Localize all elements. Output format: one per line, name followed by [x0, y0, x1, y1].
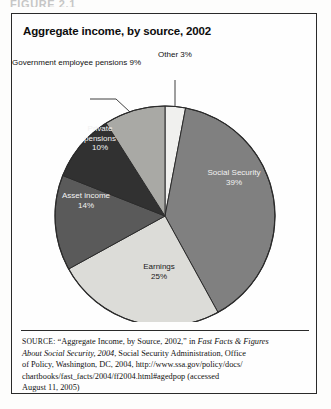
source-line-3: of Policy, Washington, DC, 2004, http://…	[22, 359, 310, 371]
pie-label-private-pensions-name-line2: pensions	[64, 134, 136, 144]
source-line-4: chartbooks/fast_facts/2004/ff2004.html#a…	[22, 371, 310, 383]
pie-label-earnings-name: Earnings	[143, 262, 175, 271]
pie-callout-gov-pensions-line1: Government	[12, 58, 56, 67]
figure-frame: Aggregate income, by source, 2002 Social…	[11, 13, 317, 394]
pie-label-private-pensions: Private pensions 10%	[64, 124, 136, 153]
leader-line-government-employee-pensions	[90, 99, 130, 112]
figure-title: Aggregate income, by source, 2002	[23, 25, 211, 37]
source-tag: SOURCE:	[22, 337, 55, 346]
source-line-2: About Social Security, 2004, Social Secu…	[22, 348, 310, 360]
pie-chart: Social Security 39% Earnings 25% Asset i…	[12, 50, 318, 322]
pie-callout-other-name: Other	[158, 50, 178, 59]
source-note: SOURCE: “Aggregate Income, by Source, 20…	[22, 336, 310, 394]
pie-label-social-security-value: 39%	[188, 178, 280, 188]
pie-callout-other-value: 3%	[180, 50, 192, 59]
pie-callout-other: Other 3%	[147, 50, 203, 60]
pie-label-private-pensions-value: 10%	[64, 143, 136, 153]
source-line-1-text: “Aggregate Income, by Source, 2002,” in	[55, 337, 197, 346]
source-divider	[21, 330, 309, 331]
source-line-5: August 11, 2005)	[22, 382, 310, 394]
source-line-2-text: , Social Security Administration, Office	[114, 349, 246, 358]
pie-label-earnings: Earnings 25%	[117, 262, 201, 281]
pie-callout-gov-pensions-line2: employee pensions	[58, 58, 127, 67]
source-line-1-italic: Fast Facts & Figures	[197, 337, 268, 346]
pie-label-asset-income: Asset income 14%	[40, 191, 132, 210]
pie-label-private-pensions-name-line1: Private	[88, 124, 113, 133]
pie-label-social-security: Social Security 39%	[188, 168, 280, 187]
pie-label-earnings-value: 25%	[117, 272, 201, 282]
pie-callout-gov-pensions-value: 9%	[129, 58, 141, 67]
pie-label-social-security-name: Social Security	[208, 168, 261, 177]
pie-callout-government-employee-pensions: Government employee pensions 9%	[12, 58, 102, 68]
figure-number-header: FIGURE 2.1	[10, 0, 76, 7]
source-line-1: SOURCE: “Aggregate Income, by Source, 20…	[22, 336, 310, 348]
pie-label-asset-income-name: Asset income	[62, 191, 110, 200]
figure-page: FIGURE 2.1 Aggregate income, by source, …	[0, 0, 331, 409]
source-line-2-italic: About Social Security, 2004	[22, 349, 114, 358]
pie-label-asset-income-value: 14%	[40, 201, 132, 211]
